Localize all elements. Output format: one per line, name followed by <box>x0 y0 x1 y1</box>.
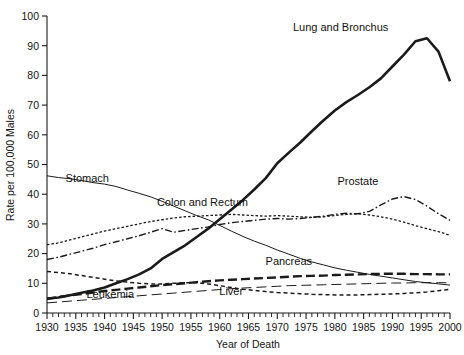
series-label-lung-and-bronchus: Lung and Bronchus <box>293 21 389 33</box>
y-tick-label: 90 <box>27 40 39 52</box>
series-label-pancreas: Pancreas <box>266 255 313 267</box>
chart-canvas: 0102030405060708090100 Rate per 100,000 … <box>0 0 464 355</box>
y-tick-label-group: 0102030405060708090100 <box>21 10 39 319</box>
y-tick-label: 30 <box>27 218 39 230</box>
x-tick-label: 1935 <box>64 321 88 333</box>
x-tick-label: 1955 <box>179 321 203 333</box>
x-major-tick-group <box>47 313 450 319</box>
y-tick-label: 50 <box>27 158 39 170</box>
series-line-lung-and-bronchus <box>47 38 450 298</box>
y-tick-label: 10 <box>27 277 39 289</box>
x-tick-label: 1950 <box>150 321 174 333</box>
x-axis-title: Year of Death <box>216 338 280 350</box>
series-label-group: Lung and BronchusStomachColon and Rectum… <box>66 21 389 300</box>
x-tick-label: 1970 <box>266 321 290 333</box>
x-tick-label: 1960 <box>208 321 232 333</box>
x-tick-label-group: 1930193519401945195019551960196519701975… <box>35 321 462 333</box>
y-tick-label: 20 <box>27 247 39 259</box>
series-label-colon-and-rectum: Colon and Rectum <box>157 196 248 208</box>
y-tick-label: 70 <box>27 99 39 111</box>
cancer-mortality-line-chart: 0102030405060708090100 Rate per 100,000 … <box>0 0 464 355</box>
series-label-prostate: Prostate <box>337 175 378 187</box>
y-tick-label: 40 <box>27 188 39 200</box>
x-axis-group: 1930193519401945195019551960196519701975… <box>35 313 462 350</box>
y-axis-title: Rate per 100,000 Males <box>4 109 16 221</box>
series-curve-group <box>47 38 450 303</box>
series-label-leukemia: Leukemia <box>86 288 135 300</box>
x-tick-label: 1995 <box>410 321 434 333</box>
y-axis-group: 0102030405060708090100 Rate per 100,000 … <box>4 10 47 319</box>
x-tick-label: 2000 <box>438 321 462 333</box>
x-tick-label: 1980 <box>323 321 347 333</box>
series-label-stomach: Stomach <box>66 172 109 184</box>
x-tick-label: 1975 <box>294 321 318 333</box>
series-line-prostate <box>47 197 450 260</box>
y-tick-label: 0 <box>33 307 39 319</box>
x-tick-label: 1940 <box>93 321 117 333</box>
x-tick-label: 1965 <box>237 321 261 333</box>
y-tick-label: 60 <box>27 129 39 141</box>
x-tick-label: 1945 <box>122 321 146 333</box>
y-tick-label: 100 <box>21 10 39 22</box>
series-label-liver: Liver <box>219 285 243 297</box>
series-line-colon-and-rectum <box>47 214 450 245</box>
series-line-stomach <box>47 176 450 285</box>
x-tick-label: 1990 <box>381 321 405 333</box>
y-tick-label: 80 <box>27 69 39 81</box>
x-tick-label: 1930 <box>35 321 59 333</box>
y-tick-group <box>42 16 47 313</box>
x-tick-label: 1985 <box>352 321 376 333</box>
